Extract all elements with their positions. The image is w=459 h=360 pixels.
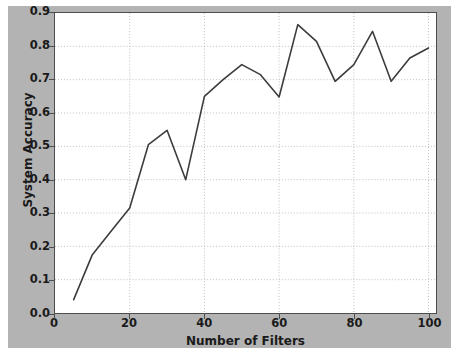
y-tick-mark: [49, 46, 54, 47]
y-tick-label: 0.2: [4, 241, 50, 253]
chart-figure: 0.00.10.20.30.40.50.60.70.80.9 020406080…: [0, 0, 459, 360]
x-tick-label: 20: [109, 318, 149, 330]
x-tick-mark: [429, 314, 430, 319]
x-tick-label: 60: [259, 318, 299, 330]
line-chart-svg: [55, 13, 436, 313]
data-series-line: [74, 25, 429, 300]
gridlines: [55, 13, 436, 313]
y-tick-label: 0.9: [4, 6, 50, 18]
plot-area: [54, 12, 437, 314]
y-tick-mark: [49, 79, 54, 80]
y-tick-mark: [49, 12, 54, 13]
x-axis-label: Number of Filters: [54, 334, 437, 348]
x-tick-label: 40: [184, 318, 224, 330]
y-axis-label: System Accuracy: [21, 70, 35, 230]
x-tick-mark: [129, 314, 130, 319]
y-tick-mark: [49, 113, 54, 114]
y-tick-mark: [49, 213, 54, 214]
y-tick-mark: [49, 247, 54, 248]
x-tick-label: 80: [334, 318, 374, 330]
x-tick-mark: [279, 314, 280, 319]
y-tick-mark: [49, 180, 54, 181]
y-tick-mark: [49, 280, 54, 281]
x-tick-mark: [354, 314, 355, 319]
y-tick-label: 0.1: [4, 274, 50, 286]
x-tick-mark: [204, 314, 205, 319]
y-tick-label: 0.8: [4, 40, 50, 52]
x-tick-mark: [54, 314, 55, 319]
x-tick-label: 100: [409, 318, 449, 330]
y-tick-mark: [49, 146, 54, 147]
x-tick-label: 0: [34, 318, 74, 330]
